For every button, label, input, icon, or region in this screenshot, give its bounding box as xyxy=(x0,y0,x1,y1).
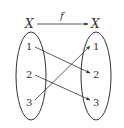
domain-element-1: 1 xyxy=(26,41,32,52)
codomain-label: X xyxy=(90,17,100,31)
domain-element-3: 3 xyxy=(26,97,32,108)
codomain-element-1: 1 xyxy=(93,41,99,52)
domain-element-2: 2 xyxy=(26,69,32,80)
domain-label: X xyxy=(24,17,34,31)
codomain-element-2: 2 xyxy=(93,69,99,80)
function-mapping-diagram: X X f 1 2 3 1 2 3 xyxy=(0,0,124,128)
function-label: f xyxy=(59,10,66,21)
codomain-element-3: 3 xyxy=(93,97,99,108)
